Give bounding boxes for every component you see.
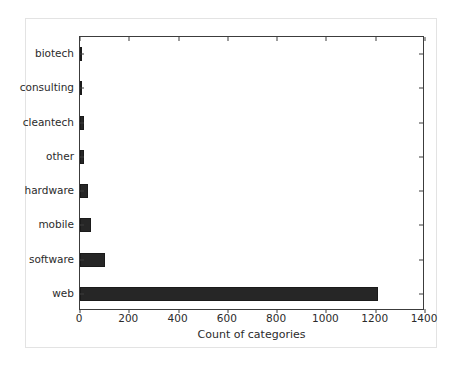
y-tick-label-consulting: consulting [20, 82, 74, 93]
x-axis-title: Count of categories [79, 329, 424, 341]
x-tick-mark-top [277, 37, 278, 41]
x-tick-label-600: 600 [217, 313, 237, 324]
y-tick-label-cleantech: cleantech [23, 116, 74, 127]
y-tick-label-biotech: biotech [35, 48, 74, 59]
y-tick-mark [80, 225, 84, 226]
y-tick-mark-right [419, 54, 423, 55]
x-tick-label-0: 0 [76, 313, 83, 324]
x-tick-label-1400: 1400 [411, 313, 438, 324]
bar-row [80, 37, 423, 71]
bar-row [80, 208, 423, 242]
x-tick-mark-top [129, 37, 130, 41]
x-tick-label-400: 400 [168, 313, 188, 324]
y-tick-mark-right [419, 88, 423, 89]
y-tick-mark [80, 54, 84, 55]
x-tick-mark-top [80, 37, 81, 41]
bar-row [80, 174, 423, 208]
x-tick-label-800: 800 [266, 313, 286, 324]
x-tick-mark-top [375, 37, 376, 41]
bar-row [80, 106, 423, 140]
y-tick-label-hardware: hardware [25, 185, 74, 196]
y-tick-mark [80, 122, 84, 123]
x-tick-label-200: 200 [118, 313, 138, 324]
bar-row [80, 140, 423, 174]
y-tick-label-mobile: mobile [38, 219, 74, 230]
y-axis-tick-labels: biotechconsultingcleantechotherhardwarem… [0, 36, 74, 310]
y-tick-label-software: software [29, 253, 74, 264]
y-tick-mark-right [419, 156, 423, 157]
figure: biotechconsultingcleantechotherhardwarem… [0, 0, 462, 367]
bar-row [80, 71, 423, 105]
plot-area [79, 36, 424, 310]
bar-row [80, 277, 423, 311]
y-tick-mark-right [419, 122, 423, 123]
x-tick-label-1200: 1200 [361, 313, 388, 324]
bar-web [80, 287, 378, 301]
x-tick-mark-top [178, 37, 179, 41]
y-tick-mark-right [419, 259, 423, 260]
x-tick-mark-top [326, 37, 327, 41]
y-tick-mark-right [419, 191, 423, 192]
x-tick-mark-top [425, 37, 426, 41]
y-tick-mark [80, 259, 84, 260]
y-tick-mark [80, 156, 84, 157]
x-tick-mark-top [227, 37, 228, 41]
x-tick-label-1000: 1000 [312, 313, 339, 324]
y-tick-mark-right [419, 293, 423, 294]
y-tick-mark [80, 293, 84, 294]
y-tick-mark [80, 191, 84, 192]
y-tick-label-web: web [52, 288, 74, 299]
y-tick-mark-right [419, 225, 423, 226]
y-tick-mark [80, 88, 84, 89]
bar-row [80, 243, 423, 277]
y-tick-label-other: other [46, 151, 74, 162]
